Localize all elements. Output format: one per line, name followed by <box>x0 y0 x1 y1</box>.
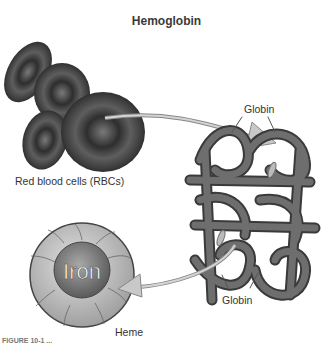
hemoglobin-illustration: Iron <box>0 0 333 343</box>
figure-title: Hemoglobin <box>0 14 333 28</box>
globin-molecule <box>190 117 315 300</box>
globin-label-bottom: Globin <box>222 294 252 306</box>
globin-label-top: Globin <box>244 103 274 115</box>
iron-label: Iron <box>63 259 101 284</box>
heme-disc: Iron <box>30 223 134 327</box>
red-blood-cells <box>0 33 145 174</box>
rbc-label: Red blood cells (RBCs) <box>15 175 124 187</box>
heme-label: Heme <box>115 326 143 338</box>
figure-caption: FIGURE 10-1 ... <box>2 337 52 343</box>
